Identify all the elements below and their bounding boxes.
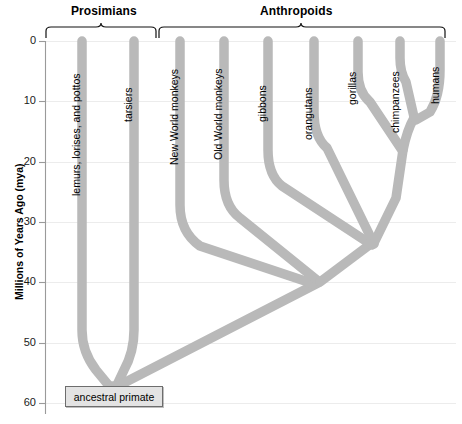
- taxon-label-gibbons: gibbons: [256, 85, 268, 122]
- taxon-label-new-world-monkeys: New World monkeys: [168, 69, 180, 165]
- y-tick-label-30: 30: [10, 215, 36, 227]
- y-axis: [39, 41, 46, 414]
- primate-phylogeny-figure: Prosimians Anthropoids Millions of Years…: [0, 0, 462, 424]
- taxon-label-tarsiers: tarsiers: [122, 88, 134, 122]
- branch-anthropoid-trunk: [118, 283, 318, 386]
- taxon-label-old-world-monkeys: Old World monkeys: [212, 69, 224, 160]
- taxon-label-gorillas: gorillas: [346, 72, 358, 105]
- phylogenetic-tree-diagram: [0, 0, 462, 424]
- y-tick-label-40: 40: [10, 275, 36, 287]
- group-label-prosimians: Prosimians: [71, 4, 137, 18]
- y-tick-label-60: 60: [10, 396, 36, 408]
- y-tick-label-0: 0: [16, 34, 36, 46]
- bracket-prosimians: [46, 23, 156, 38]
- branch-catarrhine-trunk: [320, 243, 372, 282]
- y-tick-label-50: 50: [10, 336, 36, 348]
- taxon-label-lemurs-lorises-pottos: lemurs, lorises, and pottos: [70, 73, 82, 196]
- group-label-anthropoids: Anthropoids: [260, 4, 332, 18]
- branch-lemurs-lorises-pottos: [82, 41, 110, 387]
- taxon-label-humans: humans: [429, 67, 441, 104]
- taxon-label-chimpanzees: chimpanzees: [389, 71, 401, 133]
- ancestral-primate-box: ancestral primate: [65, 386, 163, 407]
- bracket-anthropoids: [159, 23, 445, 38]
- y-tick-label-20: 20: [10, 155, 36, 167]
- y-tick-label-10: 10: [10, 94, 36, 106]
- group-brackets: [46, 23, 445, 38]
- branch-great-ape-trunk: [374, 150, 403, 243]
- taxon-label-orangutans: orangutans: [302, 87, 314, 140]
- branch-chimpanzees: [400, 41, 414, 117]
